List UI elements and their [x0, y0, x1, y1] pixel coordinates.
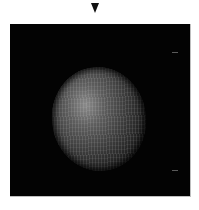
down-arrow-marker-icon: [91, 3, 99, 13]
scale-tick-top: [172, 52, 178, 53]
scale-tick-bottom: [172, 170, 178, 171]
